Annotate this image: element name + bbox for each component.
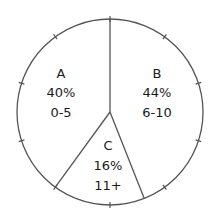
slice-a-percent: 40% <box>47 85 76 100</box>
slice-b-range: 6-10 <box>142 105 172 120</box>
slice-b-percent: 44% <box>143 85 172 100</box>
slice-a-range: 0-5 <box>50 105 71 120</box>
pie-chart: A 40% 0-5 B 44% 6-10 C 16% 11+ <box>0 0 218 217</box>
slice-c-range: 11+ <box>94 178 121 193</box>
slice-c-name: C <box>103 138 112 153</box>
slice-c-percent: 16% <box>94 158 123 173</box>
slice-a-name: A <box>57 66 66 81</box>
slice-b-name: B <box>153 66 162 81</box>
